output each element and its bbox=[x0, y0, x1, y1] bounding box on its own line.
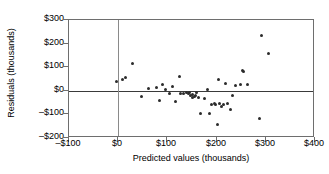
y-axis-tick-label: –$100 bbox=[22, 108, 64, 117]
y-axis-tick bbox=[63, 19, 68, 20]
scatter-point bbox=[222, 103, 225, 106]
scatter-point bbox=[267, 52, 270, 55]
x-axis-tick-label: $0 bbox=[93, 139, 141, 148]
scatter-point bbox=[234, 84, 237, 87]
y-axis-tick bbox=[63, 66, 68, 67]
scatter-point bbox=[214, 103, 217, 106]
x-axis-label: Predicted values (thousands) bbox=[68, 153, 314, 163]
plot-area bbox=[68, 19, 314, 137]
scatter-point bbox=[197, 96, 200, 99]
y-axis-tick-label: $300 bbox=[22, 14, 64, 23]
y-axis-tick bbox=[63, 90, 68, 91]
x-axis-tick-label: $100 bbox=[142, 139, 190, 148]
x-axis-tick-label: $300 bbox=[241, 139, 289, 148]
x-axis-tick-label: $200 bbox=[192, 139, 240, 148]
scatter-point bbox=[199, 112, 202, 115]
scatter-point bbox=[231, 94, 234, 97]
scatter-point bbox=[124, 76, 127, 79]
x-axis-tick-label: –$100 bbox=[44, 139, 92, 148]
y-axis-tick-label: $0 bbox=[22, 85, 64, 94]
scatter-point bbox=[178, 75, 181, 78]
scatter-point bbox=[217, 78, 220, 81]
scatter-point bbox=[121, 78, 124, 81]
scatter-point bbox=[195, 91, 198, 94]
scatter-point bbox=[161, 83, 164, 86]
y-axis-tick-label: $200 bbox=[22, 38, 64, 47]
y-axis-label: Residuals (thousands) bbox=[0, 0, 22, 145]
scatter-point bbox=[239, 83, 242, 86]
scatter-point bbox=[174, 100, 177, 103]
scatter-point bbox=[246, 83, 249, 86]
scatter-point bbox=[171, 85, 174, 88]
scatter-point bbox=[226, 102, 229, 105]
scatter-point bbox=[203, 97, 206, 100]
scatter-point bbox=[216, 123, 219, 126]
y-axis-tick bbox=[63, 43, 68, 44]
scatter-point bbox=[208, 112, 211, 115]
scatter-point bbox=[140, 95, 143, 98]
scatter-point bbox=[155, 86, 158, 89]
zero-predicted-line bbox=[118, 20, 119, 136]
y-axis-tick bbox=[63, 113, 68, 114]
scatter-point bbox=[229, 108, 232, 111]
scatter-point bbox=[242, 70, 245, 73]
scatter-point bbox=[158, 99, 161, 102]
scatter-point bbox=[220, 105, 223, 108]
y-axis-label-text: Residuals (thousands) bbox=[6, 28, 16, 118]
scatter-point bbox=[260, 34, 263, 37]
y-axis-tick-label: $100 bbox=[22, 61, 64, 70]
x-axis-tick-label: $400 bbox=[290, 139, 329, 148]
scatter-point bbox=[258, 117, 261, 120]
scatter-point bbox=[131, 62, 134, 65]
scatter-point bbox=[224, 82, 227, 85]
scatter-point bbox=[168, 92, 171, 95]
